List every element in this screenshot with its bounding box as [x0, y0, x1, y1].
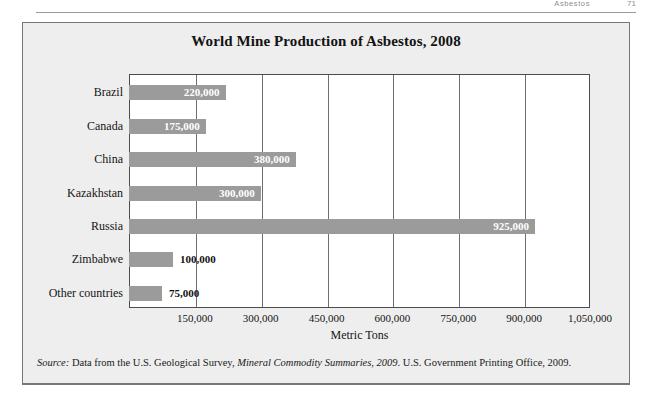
category-label: Other countries — [49, 286, 123, 301]
page-header-number: 71 — [627, 0, 636, 6]
bar-value-label: 175,000 — [164, 119, 200, 134]
bar-row: 75,000 — [129, 286, 590, 301]
bar: 300,000 — [129, 186, 261, 201]
x-tick-label: 600,000 — [375, 312, 411, 324]
bar: 380,000 — [129, 152, 296, 167]
category-label: Canada — [87, 119, 123, 134]
figure-bottom-rule — [23, 383, 629, 384]
category-label: Kazakhstan — [67, 186, 123, 201]
x-tick-label: 900,000 — [506, 312, 542, 324]
bar-row: 220,000 — [129, 85, 590, 100]
bar-value-label: 220,000 — [184, 85, 220, 100]
category-label: Russia — [91, 219, 123, 234]
bar — [129, 252, 173, 267]
category-label: China — [94, 152, 123, 167]
bar-value-label: 925,000 — [493, 219, 529, 234]
bar-value-label: 75,000 — [169, 286, 199, 301]
bar-value-label: 380,000 — [254, 152, 290, 167]
page-header-section: Asbestos — [554, 0, 590, 6]
bar-chart: BrazilCanadaChinaKazakhstanRussiaZimbabw… — [23, 23, 629, 384]
x-tick-label: 150,000 — [177, 312, 213, 324]
source-text-part1: Data from the U.S. Geological Survey, — [69, 357, 237, 368]
bar: 220,000 — [129, 85, 226, 100]
bar-row: 300,000 — [129, 186, 590, 201]
category-label: Zimbabwe — [72, 252, 123, 267]
source-text-part2: . U.S. Government Printing Office, 2009. — [398, 357, 572, 368]
bar-row: 925,000 — [129, 219, 590, 234]
source-label: Source: — [37, 357, 69, 368]
x-axis-title: Metric Tons — [129, 328, 590, 343]
bar: 175,000 — [129, 119, 206, 134]
x-tick-label: 1,050,000 — [568, 312, 612, 324]
bar-row: 175,000 — [129, 119, 590, 134]
x-tick-label: 750,000 — [440, 312, 476, 324]
bar-value-label: 100,000 — [180, 252, 216, 267]
bar-row: 380,000 — [129, 152, 590, 167]
page-header-rule — [36, 12, 636, 13]
bar: 925,000 — [129, 219, 535, 234]
x-tick-label: 450,000 — [309, 312, 345, 324]
bar-value-label: 300,000 — [219, 186, 255, 201]
category-label: Brazil — [94, 85, 123, 100]
x-tick-label: 300,000 — [243, 312, 279, 324]
source-note: Source: Data from the U.S. Geological Su… — [37, 356, 617, 369]
bar — [129, 286, 162, 301]
bar-row: 100,000 — [129, 252, 590, 267]
page-running-header: Asbestos 71 — [0, 0, 650, 16]
figure-container: World Mine Production of Asbestos, 2008 … — [22, 22, 630, 385]
source-publication-title: Mineral Commodity Summaries, 2009 — [237, 357, 397, 368]
